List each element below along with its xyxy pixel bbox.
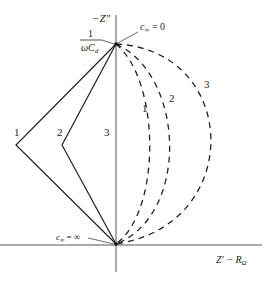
y-axis-label: −Z″ [92, 12, 111, 24]
top-annotation: c∞ = 0 [140, 21, 165, 34]
dashed-curve-1 [116, 44, 150, 244]
fraction-leader-line [102, 40, 114, 44]
top-leader-line [116, 32, 138, 44]
solid-curve-2-label: 2 [57, 126, 63, 138]
solid-curve-2 [62, 44, 116, 244]
top-apex-point [114, 42, 118, 46]
solid-curve-1-label: 1 [14, 126, 20, 138]
dashed-curve-2-label: 2 [169, 92, 175, 104]
fraction-denominator: ωCd [81, 42, 99, 55]
fraction-numerator: 1 [88, 28, 93, 39]
bottom-apex-point [114, 242, 118, 246]
impedance-diagram: −Z″ 1 ωCd c∞ = 0 c∞ = ∞ Z′ − RΩ 1 2 3 1 … [0, 0, 264, 281]
solid-curve-3-label: 3 [104, 126, 110, 138]
dashed-curve-2 [116, 44, 170, 244]
x-axis-label: Z′ − RΩ [216, 254, 247, 267]
solid-curve-1 [16, 44, 116, 244]
dashed-curve-3-label: 3 [204, 78, 210, 90]
dashed-curve-3 [116, 44, 211, 244]
bottom-annotation: c∞ = ∞ [56, 232, 80, 243]
dashed-curve-1-label: 1 [142, 102, 148, 114]
